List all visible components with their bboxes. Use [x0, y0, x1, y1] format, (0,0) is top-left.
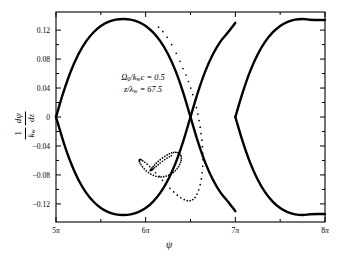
y-axis-label-left-fraction: 1 kw [14, 127, 37, 139]
svg-text:6π: 6π [142, 226, 150, 235]
svg-text:−0.08: −0.08 [32, 171, 50, 180]
z-over-lambda-annotation: z/λw = 67.5 [88, 84, 198, 97]
y-axis-label-right-fraction: dψ dz [14, 111, 36, 125]
phase-space-plot: 5π6π7π8π0.120.080.040−0.04−0.08−0.12 [0, 0, 338, 263]
y-axis-label: 1 kw dψ dz [2, 88, 48, 162]
y-label-den-2: dz [27, 112, 37, 124]
svg-text:−0.12: −0.12 [32, 200, 50, 209]
svg-text:5π: 5π [52, 226, 60, 235]
separatrix-curves [56, 19, 325, 215]
x-axis-label: ψ [0, 239, 338, 250]
y-label-den-1: kw [26, 127, 36, 139]
svg-text:0.08: 0.08 [37, 55, 50, 64]
figure-container: 5π6π7π8π0.120.080.040−0.04−0.08−0.12 1 k… [0, 0, 338, 263]
y-label-num-1: 1 [14, 129, 24, 138]
svg-text:8π: 8π [321, 226, 329, 235]
svg-text:7π: 7π [232, 226, 240, 235]
svg-text:0.12: 0.12 [37, 26, 50, 35]
y-label-num-2: dψ [14, 111, 24, 125]
